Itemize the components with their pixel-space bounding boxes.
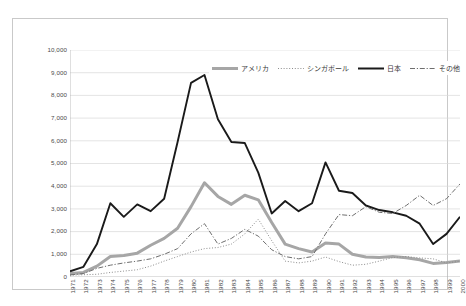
x-axis-tick-label-wrap: 1982 (212, 278, 224, 306)
y-axis-tick-label: 8,000 (51, 92, 67, 98)
x-axis-tick-label-wrap: 1989 (306, 278, 318, 306)
x-axis-tick-label-wrap: 1975 (118, 278, 130, 306)
x-axis-tick-label: 1992 (352, 279, 358, 294)
x-axis-tick-label: 1972 (83, 279, 89, 294)
x-axis-tick-label: 1996 (406, 279, 412, 294)
x-axis-tick-label-wrap: 1980 (185, 278, 197, 306)
x-axis-tick-label-wrap: 1973 (91, 278, 103, 306)
y-axis-tick-label: 9,000 (51, 70, 67, 76)
x-axis-tick-label: 1983 (231, 279, 237, 294)
x-axis-tick-label: 1993 (366, 279, 372, 294)
x-axis-tick-label-wrap: 1978 (158, 278, 170, 306)
x-axis-tick-label: 1984 (245, 279, 251, 294)
x-axis-tick-label: 1978 (164, 279, 170, 294)
legend-item-アメリカ[interactable]: アメリカ (212, 65, 269, 72)
x-axis-tick-label: 1971 (70, 279, 76, 294)
gridlines (70, 50, 460, 254)
x-axis-tick-label: 1995 (393, 279, 399, 294)
x-axis-tick-label-wrap: 1988 (293, 278, 305, 306)
x-axis-tick-label: 1977 (151, 279, 157, 294)
y-axis-tick-label: 7,000 (51, 115, 67, 121)
x-axis-tick-label: 1997 (420, 279, 426, 294)
line-dotted-gray-icon (278, 65, 304, 72)
x-axis-tick-label: 1994 (379, 279, 385, 294)
x-axis-tick-label: 1987 (285, 279, 291, 294)
x-axis-tick-label-wrap: 1981 (198, 278, 210, 306)
chart-frame: 01,0002,0003,0004,0005,0006,0007,0008,00… (12, 18, 448, 290)
data-series (70, 75, 460, 275)
x-axis-tick-label: 2000 (460, 279, 466, 294)
x-axis-tick-label-wrap: 1986 (266, 278, 278, 306)
x-axis-tick-label-wrap: 1977 (145, 278, 157, 306)
series-line-その他 (70, 184, 460, 275)
legend-item-シンガポール[interactable]: シンガポール (278, 65, 349, 72)
x-axis-tick-label: 1982 (218, 279, 224, 294)
x-axis-tick-label-wrap: 1979 (172, 278, 184, 306)
y-axis-tick-label: 5,000 (51, 160, 67, 166)
x-axis-tick-label: 1973 (97, 279, 103, 294)
x-axis-tick-label-wrap: 1976 (131, 278, 143, 306)
series-line-日本 (70, 75, 460, 271)
x-axis-tick-label: 1975 (124, 279, 130, 294)
line-solid-thick-gray-icon (212, 65, 238, 72)
x-axis-tick-label: 1979 (178, 279, 184, 294)
x-axis-tick-label-wrap: 1994 (373, 278, 385, 306)
x-axis-tick-label: 1976 (137, 279, 143, 294)
x-axis-tick-label-wrap: 1987 (279, 278, 291, 306)
x-axis-tick-label-wrap: 1990 (320, 278, 332, 306)
x-axis-tick-label: 1998 (433, 279, 439, 294)
legend-label: 日本 (387, 65, 401, 72)
plot-svg (70, 50, 460, 277)
x-axis-tick-label: 1974 (110, 279, 116, 294)
line-solid-thick-black-icon (358, 65, 384, 72)
line-dashdot-gray-icon (410, 65, 436, 72)
x-axis-tick-label-wrap: 1985 (252, 278, 264, 306)
x-axis-tick-label: 1999 (447, 279, 453, 294)
chart-legend: アメリカシンガポール日本その他 (209, 61, 463, 75)
plot-area (70, 50, 460, 277)
y-axis-tick-label: 10,000 (47, 47, 67, 53)
x-axis-tick-label-wrap: 1997 (414, 278, 426, 306)
y-axis-tick-label: 6,000 (51, 138, 67, 144)
x-axis-tick-label: 1988 (299, 279, 305, 294)
x-axis-tick-label-wrap: 1971 (64, 278, 76, 306)
x-axis-tick-label: 1986 (272, 279, 278, 294)
legend-label: シンガポール (307, 65, 349, 72)
x-axis-tick-label-wrap: 1974 (104, 278, 116, 306)
legend-item-その他[interactable]: その他 (410, 65, 460, 72)
x-axis-tick-label-wrap: 1992 (346, 278, 358, 306)
x-axis-tick-label: 1989 (312, 279, 318, 294)
x-axis-tick-labels: 1971197219731974197519761977197819791980… (70, 278, 460, 306)
y-axis-tick-labels: 01,0002,0003,0004,0005,0006,0007,0008,00… (25, 50, 70, 277)
legend-label: アメリカ (241, 65, 269, 72)
legend-item-日本[interactable]: 日本 (358, 65, 401, 72)
y-axis-tick-label: 3,000 (51, 206, 67, 212)
y-axis-tick-label: 2,000 (51, 228, 67, 234)
x-axis-tick-label-wrap: 2000 (454, 278, 466, 306)
legend-label: その他 (439, 65, 460, 72)
x-axis-tick-label: 1990 (326, 279, 332, 294)
x-axis-tick-label-wrap: 1972 (77, 278, 89, 306)
x-axis-tick-label-wrap: 1996 (400, 278, 412, 306)
y-axis-tick-label: 1,000 (51, 251, 67, 257)
x-axis-tick-label-wrap: 1998 (427, 278, 439, 306)
x-axis-tick-label-wrap: 1991 (333, 278, 345, 306)
x-axis-tick-label-wrap: 1983 (225, 278, 237, 306)
x-axis-tick-label-wrap: 1993 (360, 278, 372, 306)
x-axis-tick-label: 1985 (258, 279, 264, 294)
x-axis-tick-label: 1991 (339, 279, 345, 294)
x-axis-tick-label-wrap: 1995 (387, 278, 399, 306)
x-axis-tick-label-wrap: 1984 (239, 278, 251, 306)
x-axis-tick-label-wrap: 1999 (441, 278, 453, 306)
y-axis-tick-label: 4,000 (51, 183, 67, 189)
x-axis-tick-label: 1981 (204, 279, 210, 294)
series-line-アメリカ (70, 183, 460, 274)
x-axis-tick-label: 1980 (191, 279, 197, 294)
series-line-シンガポール (70, 219, 460, 275)
